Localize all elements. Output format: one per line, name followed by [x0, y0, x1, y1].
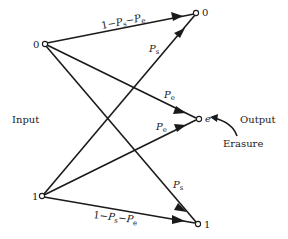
- edge-label-in1-oute: Pe: [155, 121, 167, 134]
- erasure-pointer: [214, 118, 237, 136]
- input-side-label: Input: [12, 114, 39, 125]
- output-node-0: [193, 10, 198, 15]
- edge-in0-oute: [47, 45, 196, 118]
- arrowhead-icon: [171, 12, 183, 21]
- output-node-1: [195, 221, 200, 226]
- arrowhead-icon: [174, 28, 185, 38]
- input-node-0: [42, 41, 47, 46]
- edge-label-in1-out0: Ps: [148, 43, 160, 56]
- output-label-0: 0: [202, 7, 208, 18]
- edge-label-in0-out0: 1−Ps−Pe: [100, 12, 146, 33]
- svg-text:1−Ps−Pe: 1−Ps−Pe: [100, 12, 146, 33]
- edge-label-in0-out1: Ps: [172, 179, 184, 192]
- erasure-channel-diagram: 0 1 0 e 1 Input Output Erasure 1−Ps−Pe P…: [0, 0, 288, 239]
- output-node-e: [196, 116, 201, 121]
- edge-label-in0-oute: Pe: [163, 89, 175, 102]
- erasure-label: Erasure: [223, 138, 263, 149]
- edge-in0-out1: [46, 46, 196, 222]
- output-side-label: Output: [240, 114, 276, 125]
- output-label-e: e: [205, 113, 211, 124]
- input-label-0: 0: [33, 39, 39, 50]
- erasure-arrowhead-icon: [210, 114, 218, 122]
- input-label-1: 1: [32, 191, 38, 202]
- arrowhead-icon: [172, 215, 185, 224]
- edge-in1-out0: [44, 15, 195, 194]
- input-node-1: [39, 193, 44, 198]
- output-label-1: 1: [204, 219, 210, 230]
